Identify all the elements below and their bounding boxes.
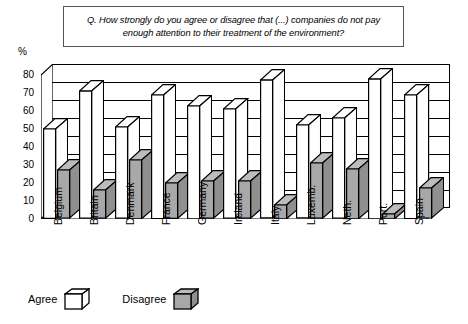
legend-item-disagree: Disagree — [122, 288, 199, 310]
y-axis-tick-label: 40 — [14, 141, 34, 152]
legend-item-agree: Agree — [28, 288, 90, 310]
x-axis-label-france: France — [160, 192, 172, 225]
y-axis-tick-label: 30 — [14, 159, 34, 170]
y-axis-tick-label: 70 — [14, 87, 34, 98]
legend-label-agree: Agree — [28, 293, 57, 305]
chart-title-box: Q. How strongly do you agree or disagree… — [63, 6, 404, 47]
y-axis-tick-label: 10 — [14, 195, 34, 206]
y-axis-tick-label: 60 — [14, 105, 34, 116]
legend-label-disagree: Disagree — [122, 293, 166, 305]
x-axis-label-germany: Germany — [196, 182, 208, 225]
x-axis-label-neth: Neth. — [341, 200, 353, 225]
bar-agree-port — [368, 68, 393, 219]
x-axis-label-britain: Britain — [88, 195, 100, 225]
x-axis-label-port: Port. — [377, 203, 389, 225]
x-axis-label-luxemb: Luxemb. — [305, 185, 317, 225]
legend-swatch-disagree-icon — [173, 288, 199, 310]
chart-title: Q. How strongly do you agree or disagree… — [64, 14, 403, 40]
x-axis-label-denmark: Denmark — [124, 182, 136, 225]
chart-legend: Agree Disagree — [28, 288, 199, 310]
y-axis-unit-label: % — [18, 46, 27, 57]
x-axis-label-ireland: Ireland — [232, 193, 244, 225]
y-axis-tick-label: 20 — [14, 177, 34, 188]
legend-swatch-agree-icon — [64, 288, 90, 310]
x-axis-label-spain: Spain — [413, 198, 425, 225]
gridline — [52, 64, 450, 65]
x-axis-label-belgium: Belgium — [52, 187, 64, 225]
y-axis-tick-label: 80 — [14, 69, 34, 80]
plot-area — [41, 64, 450, 219]
y-axis-tick-label: 0 — [14, 213, 34, 224]
x-axis-label-italy: Italy — [269, 206, 281, 225]
y-axis-tick-label: 50 — [14, 123, 34, 134]
